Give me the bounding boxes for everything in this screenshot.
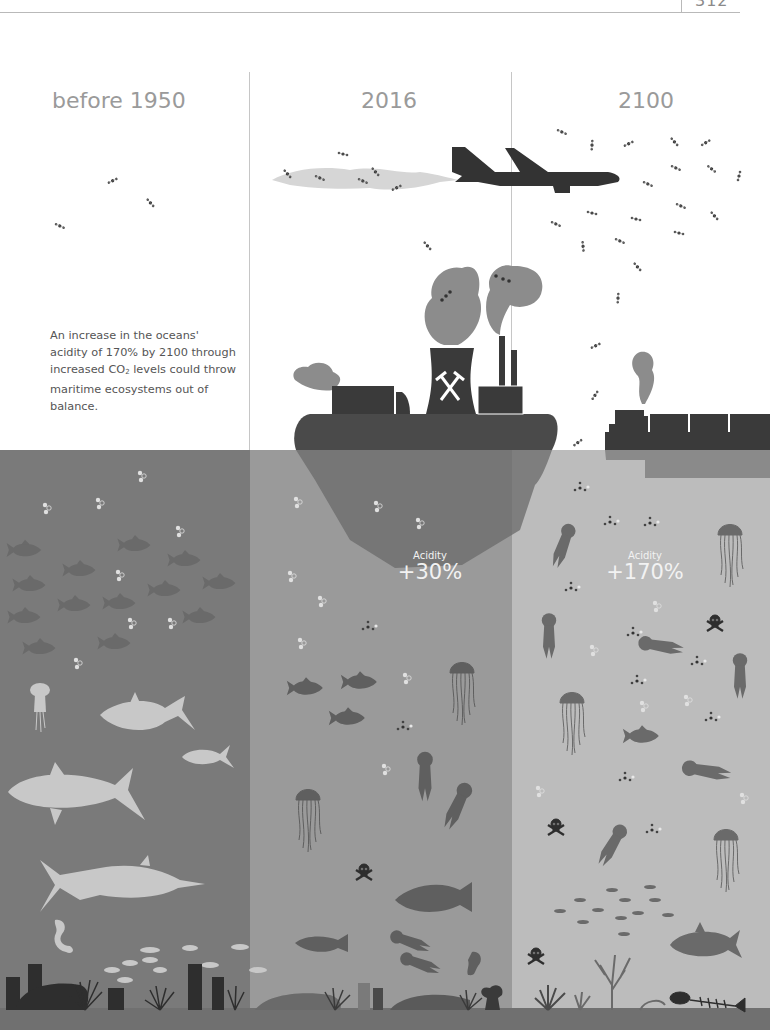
coral-icon <box>255 983 503 1010</box>
coral-icon <box>535 955 665 1010</box>
skull-crossbones-icon <box>548 819 564 835</box>
smokestack-icon <box>499 336 505 386</box>
acidity-value: +30% <box>385 561 475 583</box>
smokestack-icon <box>511 350 517 386</box>
truck-icon <box>332 386 410 414</box>
fish-icon <box>287 671 377 725</box>
skull-crossbones-icon <box>356 864 372 880</box>
illustration <box>0 0 770 1030</box>
jellyfish-icon <box>594 822 629 869</box>
jellyfish-icon <box>733 653 747 699</box>
jellyfish-icon <box>417 752 433 801</box>
acidity-badge-2100: Acidity +170% <box>598 550 692 583</box>
seahorse-icon <box>54 920 73 953</box>
jellyfish-icon <box>718 525 743 588</box>
fish-school-icon <box>104 944 267 983</box>
skull-crossbones-icon <box>528 948 544 964</box>
jellyfish-icon <box>30 683 50 732</box>
co2-molecule-icon <box>54 176 156 230</box>
tuna-icon <box>8 762 145 825</box>
jellyfish-icon <box>637 635 684 657</box>
jellyfish-icon <box>398 951 442 978</box>
grouper-icon <box>295 934 348 952</box>
fish-school-icon <box>554 885 674 936</box>
acidity-badge-2016: Acidity +30% <box>385 550 475 583</box>
jellyfish-icon <box>714 830 739 893</box>
marlin-icon <box>40 855 205 912</box>
tuna-icon <box>182 745 234 768</box>
coral-icon <box>6 964 244 1010</box>
tuna-icon <box>100 692 195 730</box>
container-ship-icon <box>605 352 770 478</box>
airplane-icon <box>452 147 620 193</box>
contrail-cloud-icon <box>272 168 458 190</box>
jellyfish-icon <box>560 693 585 756</box>
jellyfish-icon <box>440 780 475 831</box>
smoke-icon <box>632 352 654 404</box>
skull-crossbones-icon <box>707 615 723 631</box>
jellyfish-icon <box>548 522 577 570</box>
jellyfish-icon <box>681 759 732 783</box>
jellyfish-icon <box>296 790 321 853</box>
acidity-value: +170% <box>598 561 692 583</box>
co2-molecule-icon <box>282 152 433 251</box>
tuna-icon <box>670 922 742 958</box>
grouper-icon <box>395 882 472 912</box>
jellyfish-icon <box>450 663 475 726</box>
fish-icon <box>623 725 659 743</box>
jellyfish-icon <box>542 613 556 659</box>
smoke-icon <box>425 267 481 345</box>
jellyfish-icon <box>388 929 432 956</box>
factory-island-icon <box>293 265 557 568</box>
carbonic-acid-molecule-icon <box>565 482 721 834</box>
seahorse-icon <box>467 952 480 975</box>
cooling-tower-icon <box>426 348 476 414</box>
fish-skeleton-icon <box>670 992 745 1012</box>
fish-school-icon <box>7 535 236 655</box>
